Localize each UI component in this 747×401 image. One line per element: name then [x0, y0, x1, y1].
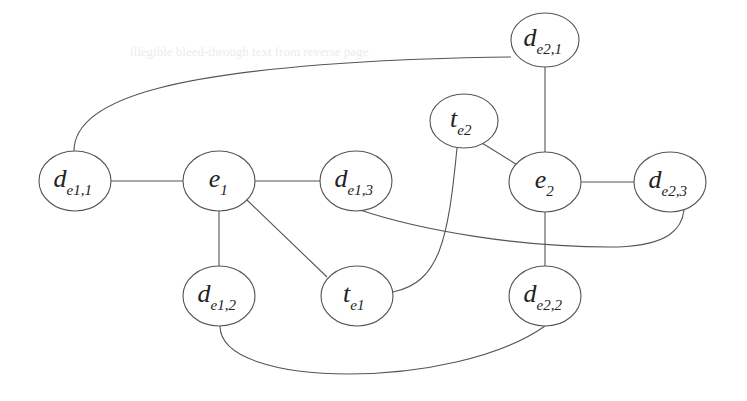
node-e2: e2 [509, 152, 581, 212]
node-de22: de2,2 [509, 266, 581, 326]
node-ellipse [509, 266, 581, 326]
node-de12: de1,2 [183, 266, 255, 326]
node-label-base: d [198, 279, 212, 308]
node-label-base: d [524, 23, 538, 52]
edge-te1-te2 [393, 148, 457, 292]
node-label-base: d [335, 164, 349, 193]
node-te1: te1 [321, 266, 393, 326]
node-ellipse [320, 151, 392, 211]
node-ellipse [634, 152, 706, 212]
node-de13: de1,3 [320, 151, 392, 211]
node-label-subscript: e1,3 [348, 182, 373, 198]
node-ellipse [430, 94, 498, 148]
node-label-subscript: e1 [350, 297, 364, 313]
node-label-subscript: e2 [457, 122, 472, 138]
edge-de12-de22 [220, 326, 545, 374]
node-label-subscript: e2,2 [537, 297, 563, 313]
node-de21: de2,1 [511, 13, 579, 67]
edge-te2-e2 [482, 143, 519, 166]
node-label-subscript: e1,1 [67, 182, 92, 198]
node-ellipse [39, 151, 111, 211]
node-label-base: d [524, 279, 538, 308]
node-label-base: d [54, 164, 68, 193]
node-ellipse [511, 13, 579, 67]
node-label-base: e [209, 164, 221, 193]
node-de11: de1,1 [39, 151, 111, 211]
node-ellipse [321, 266, 393, 326]
node-label-subscript: e2,1 [537, 41, 562, 57]
diagram-canvas: illegible bleed-through text from revers… [0, 0, 747, 401]
node-label-subscript: e2,3 [662, 183, 687, 199]
node-label-base: d [649, 165, 663, 194]
node-te2: te2 [430, 94, 498, 148]
edges-layer [74, 57, 684, 374]
node-e1: e1 [183, 151, 255, 211]
edge-e1-te1 [247, 200, 327, 277]
bleed-through-text: illegible bleed-through text from revers… [130, 44, 369, 60]
edge-de13-de23 [360, 210, 684, 247]
node-label-subscript: 2 [546, 183, 554, 199]
node-label-base: e [535, 165, 547, 194]
node-de23: de2,3 [634, 152, 706, 212]
graph-diagram: de2,1te2de1,1e1de1,3e2de2,3de1,2te1de2,2 [0, 0, 747, 401]
node-ellipse [183, 266, 255, 326]
node-label-subscript: 1 [220, 182, 228, 198]
node-label-subscript: e1,2 [211, 297, 237, 313]
